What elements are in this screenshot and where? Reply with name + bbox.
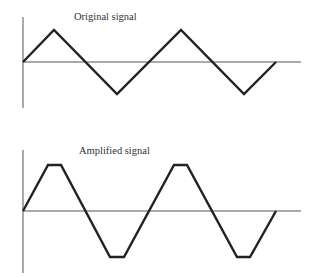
- signal-diagram: [0, 0, 315, 278]
- amplified-signal-panel: [23, 150, 301, 273]
- original-signal-label: Original signal: [74, 11, 137, 22]
- amplified-signal-label: Amplified signal: [79, 145, 150, 156]
- original-signal-panel: [23, 17, 301, 108]
